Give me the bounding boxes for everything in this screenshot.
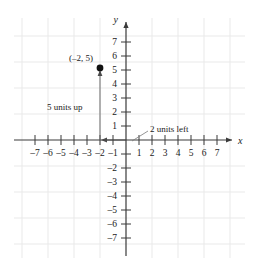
coordinate-plane-figure: x y –7 –6 –5 –4 –3 –2 –1 1 2 3 4 5 6 7 7…	[0, 0, 259, 265]
graph-svg: x y –7 –6 –5 –4 –3 –2 –1 1 2 3 4 5 6 7 7…	[0, 0, 259, 265]
y-tick-label: 2	[112, 107, 117, 117]
y-tick-label: 5	[112, 65, 117, 75]
y-tick-label: –6	[107, 219, 118, 229]
x-tick-label: –1	[107, 148, 118, 158]
plotted-point[interactable]	[97, 65, 104, 72]
y-tick-label: 1	[112, 121, 117, 131]
y-tick-label: 4	[112, 79, 117, 89]
x-tick-label: 6	[202, 148, 207, 158]
y-tick-label: –2	[107, 163, 118, 173]
canvas-background	[0, 0, 259, 265]
x-tick-label: –7	[29, 148, 40, 158]
x-tick-label: 4	[176, 148, 181, 158]
units-up-label: 5 units up	[47, 102, 83, 112]
units-left-label: 2 units left	[150, 124, 189, 134]
y-tick-label: 7	[112, 37, 117, 47]
x-tick-label: 1	[137, 148, 142, 158]
y-tick-label: –7	[107, 233, 118, 243]
y-tick-label: –3	[107, 177, 118, 187]
x-tick-label: –6	[42, 148, 53, 158]
y-tick-label: –5	[107, 205, 118, 215]
x-tick-label: 3	[163, 148, 168, 158]
y-tick-label: 6	[112, 51, 117, 61]
x-tick-label: –3	[81, 148, 92, 158]
x-tick-label: –2	[94, 148, 105, 158]
y-tick-label: –4	[107, 191, 118, 201]
y-tick-label: 3	[112, 93, 117, 103]
x-tick-label: 2	[150, 148, 155, 158]
x-tick-label: 7	[215, 148, 220, 158]
point-label: (–2, 5)	[69, 53, 93, 63]
x-tick-label: –4	[68, 148, 79, 158]
x-tick-label: –5	[55, 148, 66, 158]
x-tick-label: 5	[189, 148, 194, 158]
x-axis-label: x	[237, 135, 243, 146]
y-axis-label: y	[113, 14, 119, 25]
